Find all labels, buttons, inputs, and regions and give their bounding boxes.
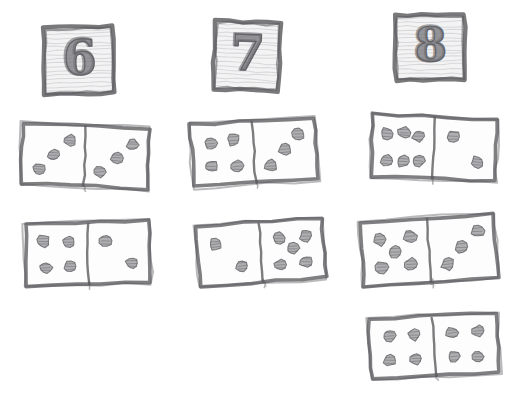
domino-tile[interactable]: 257	[185, 207, 336, 297]
domino-tile[interactable]: 628	[360, 104, 507, 192]
svg-text:8: 8	[414, 17, 448, 73]
number-card-7[interactable]: 777	[202, 11, 291, 102]
domino-tile[interactable]: 336	[10, 113, 159, 199]
worksheet-canvas: 666336426777437257888628538448	[0, 0, 517, 402]
card-digit: 88	[413, 16, 447, 72]
card-digit: 77	[229, 23, 266, 83]
number-card-6[interactable]: 666	[33, 16, 125, 105]
svg-text:7: 7	[230, 24, 266, 83]
card-digit: 66	[61, 28, 97, 85]
domino-tile[interactable]: 538	[349, 203, 508, 298]
domino-tile[interactable]: 448	[358, 302, 510, 390]
svg-text:6: 6	[62, 29, 97, 86]
domino-tile[interactable]: 437	[180, 107, 329, 198]
number-card-8[interactable]: 888	[384, 4, 475, 91]
domino-tile[interactable]: 426	[15, 210, 161, 296]
